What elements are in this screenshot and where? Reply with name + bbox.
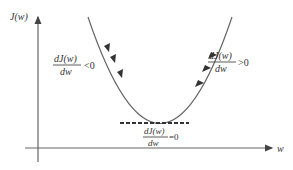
left-gradient-label: dJ(w) dw <0: [53, 53, 95, 77]
svg-text:=0: =0: [169, 132, 179, 142]
arrow-icon: [110, 54, 116, 63]
svg-text:dJ(w): dJ(w): [209, 50, 232, 62]
arrow-icon: [104, 43, 110, 52]
right-gradient-label: dJ(w) dw >0: [208, 50, 249, 74]
arrow-icon: [117, 69, 123, 78]
minimum-gradient-label: dJ(w) dw =0: [143, 126, 179, 148]
y-axis-label: J(w): [10, 11, 28, 23]
arrow-icon: [202, 65, 211, 72]
svg-text:>0: >0: [238, 57, 249, 68]
svg-text:dJ(w): dJ(w): [54, 53, 77, 65]
gradient-descent-diagram: J(w) w dJ(w) dw <0 dJ(w) dw >0 dJ(w) dw …: [0, 0, 293, 170]
left-descent-arrows: [104, 43, 123, 78]
svg-text:dw: dw: [215, 63, 227, 74]
cost-curve: [88, 17, 232, 124]
svg-text:dw: dw: [60, 66, 72, 77]
svg-text:dw: dw: [148, 138, 159, 148]
svg-text:<0: <0: [84, 60, 95, 71]
svg-text:dJ(w): dJ(w): [144, 126, 165, 136]
x-axis-label: w: [277, 143, 284, 154]
